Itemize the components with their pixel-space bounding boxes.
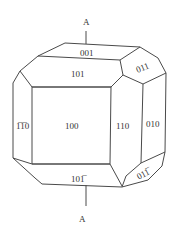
edge-001-101: [38, 56, 120, 60]
face-label-110: 110: [116, 121, 130, 131]
face-label-100: 100: [65, 121, 79, 131]
face-label-011: 011: [135, 61, 151, 75]
crystal-habit-diagram: A A 001 101 011 100 110 010 1̅1̅0 101̅ 0…: [0, 0, 177, 232]
face-label-10-1: 101̅: [71, 174, 88, 184]
face-label-01-1: 011̅: [135, 165, 154, 181]
face-label-1-10: 1̅1̅0: [16, 121, 30, 131]
face-label-001: 001: [80, 48, 94, 58]
axis-top-label: A: [83, 17, 90, 27]
axis-bottom-label: A: [79, 214, 86, 224]
face-label-101: 101: [71, 69, 85, 79]
edge-10-1-top: [13, 158, 122, 186]
edge-110-010: [141, 84, 143, 163]
face-label-010: 010: [146, 119, 160, 129]
